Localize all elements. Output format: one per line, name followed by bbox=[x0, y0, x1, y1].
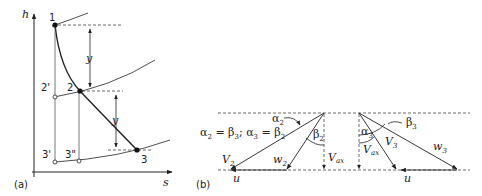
s-axis-label: s bbox=[163, 176, 169, 189]
point-1 bbox=[52, 22, 57, 27]
label-3: 3 bbox=[141, 154, 147, 165]
label-3prime: 3' bbox=[42, 149, 51, 160]
y-label-upper: y bbox=[85, 52, 93, 65]
Vax-left-label: Vax bbox=[328, 151, 344, 165]
label-2prime: 2' bbox=[41, 82, 50, 93]
w3-label: w3 bbox=[433, 140, 447, 155]
caption-a: (a) bbox=[14, 179, 28, 190]
V2-label: V2 bbox=[222, 153, 235, 168]
beta3-leader bbox=[388, 122, 402, 124]
inlet-triangle: α2 β2 V2 w2 Vax u bbox=[222, 112, 344, 185]
relation-text: α2 = β3; α3 = β2 bbox=[200, 126, 285, 141]
point-3doubleprime bbox=[77, 159, 81, 163]
V3-label: V3 bbox=[385, 135, 398, 150]
panel-b-velocity-triangles: (b) α2 = β3; α3 = β2 α2 β2 V2 w2 Vax u bbox=[196, 112, 470, 190]
u-left-label: u bbox=[233, 172, 240, 185]
label-3doubleprime: 3" bbox=[65, 149, 76, 160]
label-1: 1 bbox=[49, 12, 55, 23]
y-label-lower: y bbox=[111, 114, 119, 127]
u-right-label: u bbox=[404, 172, 411, 185]
figure: h s (a) y y 1 2 3 2' 3' 3" bbox=[0, 0, 482, 196]
caption-b: (b) bbox=[196, 179, 210, 190]
beta2-label: β2 bbox=[313, 128, 324, 143]
point-2prime bbox=[53, 95, 57, 99]
beta3-label: β3 bbox=[406, 116, 417, 131]
point-3prime bbox=[53, 160, 57, 164]
panel-a-hs-diagram: h s (a) y y 1 2 3 2' 3' 3" bbox=[14, 8, 172, 190]
alpha2-label: α2 bbox=[272, 112, 284, 127]
point-3 bbox=[134, 147, 139, 152]
point-2 bbox=[77, 88, 82, 93]
outlet-triangle: α3 β3 V3 Vax w3 u bbox=[359, 113, 457, 185]
alpha2-arc bbox=[284, 118, 300, 125]
w2-label: w2 bbox=[273, 153, 287, 168]
alpha3-label: α3 bbox=[361, 125, 373, 140]
label-2: 2 bbox=[67, 82, 73, 93]
Vax-right-label: Vax bbox=[363, 143, 379, 157]
h-axis-label: h bbox=[22, 8, 29, 21]
